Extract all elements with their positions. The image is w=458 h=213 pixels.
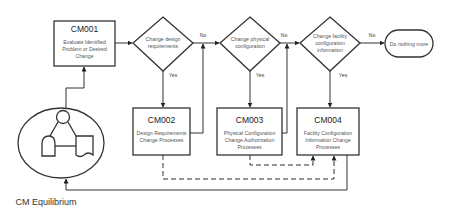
edge-cm004-equilibrium: [66, 155, 347, 190]
process-text: Information Change: [305, 137, 351, 143]
process-cm003[interactable]: CM003 Physical Configuration Change Auth…: [217, 108, 282, 155]
label-no-d1: No: [200, 32, 207, 38]
edge-cm003-cm004-dashed: [250, 155, 313, 165]
decision-text: configuration: [315, 40, 345, 46]
process-text: Change: [75, 53, 93, 59]
edge-cm003-return: [282, 44, 287, 133]
process-text: Processes: [237, 144, 262, 150]
process-text: Change Authorization: [225, 137, 275, 143]
process-text: Problem or Desired: [62, 46, 107, 52]
decision-change-facility-configuration-information[interactable]: Change facility configuration informatio…: [300, 17, 360, 71]
process-cm004[interactable]: CM004 Facility Configuration Information…: [297, 108, 359, 155]
process-cm002[interactable]: CM002 Design Requirements Change Process…: [133, 108, 190, 155]
process-text: Change Processes: [140, 137, 184, 143]
process-text: Facility Configuration: [304, 130, 353, 136]
flowchart: No No No Yes Yes Yes CM001 Evaluate Iden…: [0, 0, 458, 213]
decision-text: Change facility: [313, 33, 347, 39]
label-yes-d2: Yes: [256, 72, 265, 78]
label-yes-d1: Yes: [169, 72, 178, 78]
decision-change-physical-configuration[interactable]: Change physical configuration: [220, 17, 280, 71]
process-code: CM003: [236, 115, 264, 125]
edge-cm002-cm004-dashed: [163, 155, 334, 179]
process-text: Physical Configuration: [224, 130, 276, 136]
decision-text: Change design: [146, 36, 181, 42]
process-cm001[interactable]: CM001 Evaluate Identified Problem or Des…: [54, 21, 115, 66]
cm-equilibrium-caption: CM Equilibrium: [15, 197, 76, 207]
process-text: Evaluate Identified: [63, 39, 106, 45]
label-no-d2: No: [281, 32, 288, 38]
process-code: CM001: [71, 24, 99, 34]
terminal-do-nothing-more[interactable]: Do nothing more: [385, 30, 433, 57]
cm-equilibrium-node[interactable]: [18, 108, 104, 178]
process-code: CM004: [314, 115, 342, 125]
terminal-text: Do nothing more: [390, 41, 428, 47]
decision-change-design-requirements[interactable]: Change design requirements: [133, 17, 193, 71]
edge-equilibrium-cm001: [66, 67, 84, 110]
decision-text: requirements: [148, 43, 179, 49]
label-no-d3: No: [369, 32, 376, 38]
process-text: Design Requirements: [137, 130, 187, 136]
decision-text: Change physical: [231, 36, 269, 42]
process-code: CM002: [148, 115, 176, 125]
edge-cm002-return: [190, 44, 203, 133]
decision-text: information: [317, 47, 343, 53]
label-yes-d3: Yes: [339, 72, 348, 78]
decision-text: configuration: [235, 43, 265, 49]
process-text: Processes: [316, 144, 341, 150]
